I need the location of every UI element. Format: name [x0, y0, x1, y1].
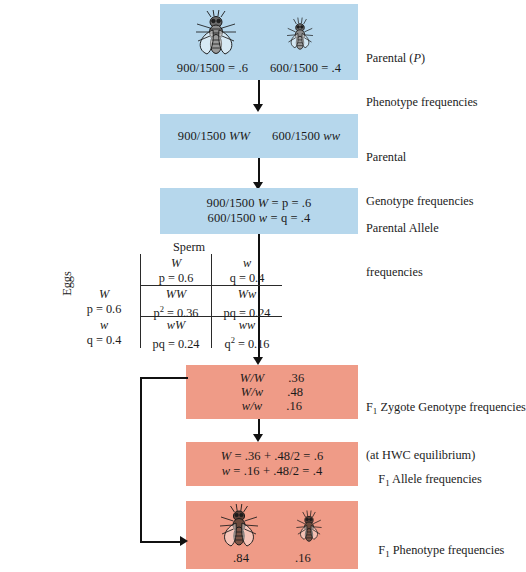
parental-phenotype-label-line1: Parental (P): [366, 51, 478, 66]
parental-allele-line1-rest: = p = .6: [268, 196, 311, 211]
punnett-cell-Ww: Ww pq = 0.24: [213, 287, 281, 321]
f1-zygote-row1-genotype: W/w: [241, 385, 264, 399]
punnett-cell-WW: WW p2 = 0.36: [142, 287, 210, 321]
parental-allele-line1-num: 900/1500: [207, 196, 258, 211]
parental-allele-box: 900/1500 W = p = .6 600/1500 w = q = .4: [160, 188, 358, 234]
punnett-col-header-w-freq: q = 0.4: [213, 271, 281, 286]
parental-phenotype-box: 900/1500 = .6 600/1500 = .4: [160, 4, 358, 80]
punnett-cell-wW: wW pq = 0.24: [142, 318, 210, 352]
arrow-1-head: [253, 104, 263, 112]
parental-allele-label: Parental Allele frequencies: [366, 192, 439, 308]
punnett-row-header-w-allele: w: [70, 318, 138, 333]
feedback-arrow-vertical-segment: [140, 377, 142, 542]
punnett-row-header-W-freq: p = 0.6: [70, 302, 138, 317]
f1-phenotype-box: .84 .16: [186, 501, 358, 569]
f1-allele-line1-allele: W: [221, 449, 232, 464]
f1-allele-line2-rest: = .16 + .48/2 = .4: [230, 464, 322, 479]
f1-allele-line1-rest: = .36 + .48/2 = .6: [231, 449, 323, 464]
punnett-row-header-W: W p = 0.6: [70, 287, 138, 317]
f1-zygote-row2-value: .16: [286, 399, 302, 413]
parental-genotype-left-geno: WW: [229, 129, 250, 144]
f1-zygote-row1-value: .48: [287, 385, 303, 399]
parental-allele-line2-rest: = q = .4: [267, 211, 310, 226]
feedback-arrow-head: [180, 536, 188, 546]
f1-zygote-box: W/W .36 W/w .48 w/w .16: [186, 365, 358, 419]
f1-zygote-row0-value: .36: [288, 371, 304, 385]
punnett-vertical-rule-left: [140, 254, 141, 348]
punnett-sperm-title: Sperm: [96, 240, 282, 255]
arrow-4-head: [253, 434, 263, 442]
f1-zygote-row2-genotype: w/w: [242, 399, 262, 413]
feedback-arrow-top-segment: [140, 377, 188, 379]
parental-phenotype-freq-left: 900/1500 = .6: [177, 61, 248, 76]
parental-genotype-label-line1: Parental: [366, 150, 474, 165]
f1-zygote-row0-genotype: W/W: [240, 371, 265, 385]
parental-allele-line1-allele: W: [258, 196, 269, 211]
punnett-cell-Ww-genotype: Ww: [213, 287, 281, 302]
punnett-cell-ww: ww q2 = 0.16: [213, 318, 281, 352]
f1-flies-illustration: [189, 504, 355, 550]
parental-genotype-box: 900/1500 WW 600/1500 ww: [160, 114, 358, 158]
f1-allele-line2-allele: w: [222, 464, 230, 479]
punnett-cell-ww-expr: q2 = 0.16: [213, 333, 281, 352]
arrow-1-line: [258, 80, 260, 107]
punnett-row-header-W-allele: W: [70, 287, 138, 302]
parental-phenotype-label-line2: Phenotype frequencies: [366, 95, 478, 110]
arrow-3-head: [253, 357, 263, 365]
punnett-cell-wW-genotype: wW: [142, 318, 210, 333]
feedback-arrow-bottom-segment: [140, 541, 182, 543]
parental-genotype-right-num: 600/1500: [272, 129, 323, 144]
f1-phenotype-value-right: .16: [295, 551, 311, 566]
punnett-cell-WW-genotype: WW: [142, 287, 210, 302]
punnett-cell-ww-genotype: ww: [213, 318, 281, 333]
f1-allele-label: F1 Allele frequencies: [366, 457, 482, 505]
punnett-row-header-w: w q = 0.4: [70, 318, 138, 348]
punnett-cell-wW-expr: pq = 0.24: [142, 333, 210, 352]
punnett-col-header-W: W p = 0.6: [142, 256, 210, 286]
f1-phenotype-label: F1 Phenotype frequencies: [366, 528, 504, 572]
parental-genotype-left-num: 900/1500: [178, 129, 229, 144]
parental-allele-line2-allele: w: [259, 211, 267, 226]
punnett-row-header-w-freq: q = 0.4: [70, 333, 138, 348]
parental-genotype-right-geno: ww: [323, 129, 340, 144]
punnett-eggs-title: Eggs: [60, 229, 75, 339]
f1-phenotype-value-left: .84: [233, 551, 249, 566]
parental-allele-line2-num: 600/1500: [208, 211, 259, 226]
arrow-2-line: [258, 158, 260, 185]
f1-allele-box: W = .36 + .48/2 = .6 w = .16 + .48/2 = .…: [186, 442, 358, 486]
f1-zygote-label-line1: F1 Zygote Genotype frequencies: [366, 400, 526, 419]
punnett-square: Sperm W p = 0.6 w q = 0.4 W p = 0.6 w q …: [96, 240, 282, 348]
punnett-col-header-W-freq: p = 0.6: [142, 271, 210, 286]
parental-allele-label-line1: Parental Allele: [366, 221, 439, 236]
parental-flies-illustration: [164, 10, 354, 60]
parental-phenotype-freq-right: 600/1500 = .4: [270, 61, 341, 76]
punnett-col-header-w: w q = 0.4: [213, 256, 281, 286]
parental-allele-label-line2: frequencies: [366, 265, 439, 280]
punnett-col-header-W-allele: W: [142, 256, 210, 271]
punnett-col-header-w-allele: w: [213, 256, 281, 271]
punnett-vertical-rule-mid: [211, 254, 212, 348]
